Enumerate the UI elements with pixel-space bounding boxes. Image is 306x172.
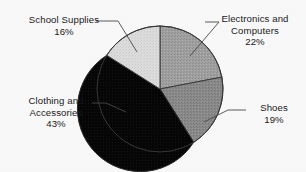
- label-shoes-percent: 19%: [248, 114, 300, 126]
- label-clothing-name-line1: Clothing and: [6, 95, 106, 107]
- label-shoes: Shoes 19%: [248, 102, 300, 125]
- label-clothing: Clothing and Accessories 43%: [6, 95, 106, 130]
- label-school-supplies: School Supplies 16%: [18, 14, 110, 37]
- label-electronics: Electronics and Computers 22%: [208, 13, 302, 48]
- label-school-supplies-name: School Supplies: [18, 14, 110, 26]
- label-electronics-percent: 22%: [208, 36, 302, 48]
- label-electronics-name-line2: Computers: [208, 25, 302, 37]
- label-school-supplies-percent: 16%: [18, 26, 110, 38]
- label-clothing-name-line2: Accessories: [6, 107, 106, 119]
- label-shoes-name: Shoes: [248, 102, 300, 114]
- label-clothing-percent: 43%: [6, 118, 106, 130]
- label-electronics-name-line1: Electronics and: [208, 13, 302, 25]
- pie-chart-figure: School Supplies 16% Electronics and Comp…: [0, 0, 306, 172]
